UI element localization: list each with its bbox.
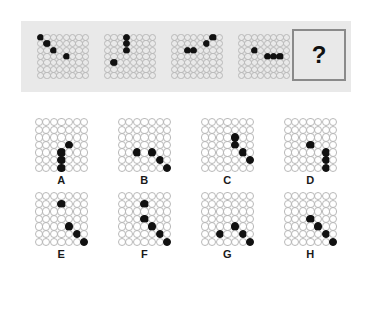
empty-dot <box>329 164 337 172</box>
dot-grid-option-e <box>35 192 89 246</box>
empty-dot <box>283 72 290 79</box>
empty-dot <box>82 72 89 79</box>
answer-option-h[interactable]: H <box>279 192 342 260</box>
dot-grid-stem-4 <box>238 34 290 80</box>
answer-options-row-2: EFGH <box>0 192 372 260</box>
filled-dot <box>80 238 88 246</box>
answer-option-d[interactable]: D <box>279 118 342 186</box>
stem-panel-2 <box>104 34 156 80</box>
dot-grid-stem-1 <box>37 34 89 80</box>
filled-dot <box>246 238 254 246</box>
answer-option-e[interactable]: E <box>30 192 93 260</box>
stem-panel-4 <box>238 34 290 80</box>
answer-option-label-a: A <box>57 174 65 186</box>
dot-grid-option-h <box>284 192 338 246</box>
answer-option-f[interactable]: F <box>113 192 176 260</box>
answer-option-label-g: G <box>223 248 232 260</box>
dot-grid-stem-2 <box>104 34 156 80</box>
answer-options-row-1: ABCD <box>0 118 372 186</box>
filled-dot <box>329 238 337 246</box>
answer-option-b[interactable]: B <box>113 118 176 186</box>
stem-panel-3 <box>171 34 223 80</box>
stem-panel-1 <box>37 34 89 80</box>
dot-grid-option-b <box>118 118 172 172</box>
dot-grid-option-f <box>118 192 172 246</box>
empty-dot <box>149 72 156 79</box>
answer-option-label-e: E <box>58 248 66 260</box>
dot-grid-stem-3 <box>171 34 223 80</box>
filled-dot <box>163 238 171 246</box>
missing-answer-box[interactable]: ? <box>292 29 346 81</box>
answer-option-g[interactable]: G <box>196 192 259 260</box>
answer-option-c[interactable]: C <box>196 118 259 186</box>
filled-dot <box>163 164 171 172</box>
empty-dot <box>216 72 223 79</box>
empty-dot <box>80 164 88 172</box>
answer-option-label-c: C <box>223 174 231 186</box>
empty-dot <box>246 164 254 172</box>
answer-option-a[interactable]: A <box>30 118 93 186</box>
dot-grid-option-a <box>35 118 89 172</box>
dot-grid-option-d <box>284 118 338 172</box>
answer-option-label-f: F <box>141 248 148 260</box>
answer-option-label-h: H <box>306 248 314 260</box>
dot-grid-option-g <box>201 192 255 246</box>
dot-grid-option-c <box>201 118 255 172</box>
answer-options: ABCD EFGH <box>0 118 372 266</box>
question-mark-label: ? <box>312 43 327 67</box>
answer-option-label-b: B <box>140 174 148 186</box>
answer-option-label-d: D <box>306 174 314 186</box>
